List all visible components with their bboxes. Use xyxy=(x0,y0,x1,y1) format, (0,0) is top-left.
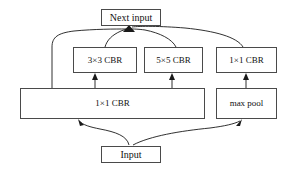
node-conv1x1-cbr-right-label: 1×1 CBR xyxy=(229,56,263,65)
arrowhead-conv1x1-wide-to-conv3x3 xyxy=(92,73,98,80)
node-input-label: Input xyxy=(120,150,141,160)
arrowhead-input-to-conv1x1-wide xyxy=(78,119,84,126)
arrowhead-into-next-input xyxy=(123,25,135,32)
edge-conv1x1-right-to-next-input xyxy=(132,26,243,47)
arrowhead-conv1x1-wide-to-conv5x5 xyxy=(169,73,175,80)
edge-conv5x5-to-next-input xyxy=(131,29,176,47)
node-max-pool-label: max pool xyxy=(230,99,264,108)
node-conv1x1-cbr-wide-label: 1×1 CBR xyxy=(95,99,129,108)
edge-input-to-max-pool xyxy=(133,121,240,145)
node-next-input-label: Next input xyxy=(110,13,153,23)
arrowhead-max-pool-to-conv1x1-right xyxy=(243,73,249,80)
node-conv5x5-cbr-label: 5×5 CBR xyxy=(156,56,190,65)
edge-input-to-conv1x1-wide xyxy=(79,121,129,145)
node-next-input[interactable]: Next input xyxy=(101,9,161,26)
node-input[interactable]: Input xyxy=(101,146,161,163)
node-conv1x1-cbr-wide[interactable]: 1×1 CBR xyxy=(20,88,205,119)
node-conv3x3-cbr-label: 3×3 CBR xyxy=(88,56,122,65)
node-conv1x1-cbr-right[interactable]: 1×1 CBR xyxy=(216,47,277,73)
node-conv3x3-cbr[interactable]: 3×3 CBR xyxy=(73,47,137,73)
node-max-pool[interactable]: max pool xyxy=(216,88,277,119)
node-conv5x5-cbr[interactable]: 5×5 CBR xyxy=(144,47,203,73)
diagram-canvas: Next input 3×3 CBR 5×5 CBR 1×1 CBR 1×1 C… xyxy=(0,0,290,174)
